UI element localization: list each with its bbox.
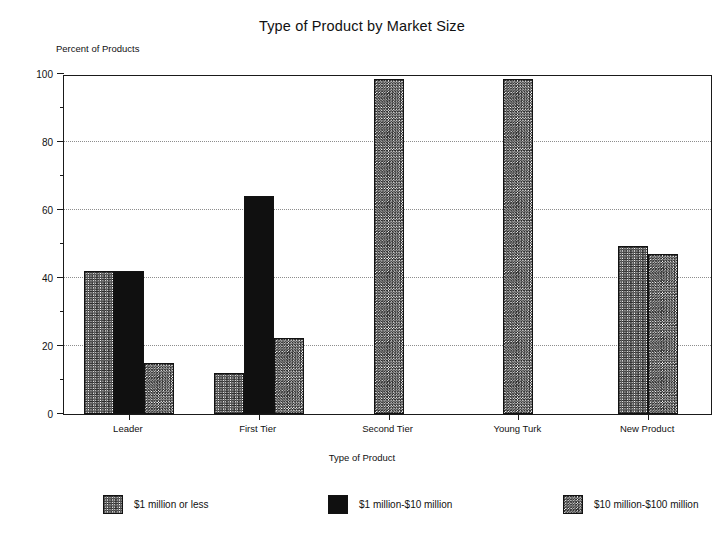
- x-axis-tick-label: First Tier: [239, 423, 276, 434]
- y-axis-tick: [57, 141, 64, 142]
- legend-item[interactable]: $1 million or less: [103, 493, 208, 515]
- legend-label: $1 million or less: [134, 499, 208, 510]
- legend-item[interactable]: $10 million-$100 million: [563, 493, 699, 515]
- legend-swatch-icon: [563, 495, 583, 514]
- y-axis-minor-tick: [60, 243, 64, 244]
- x-axis-tick-label: New Product: [620, 423, 674, 434]
- y-axis-minor-tick: [60, 107, 64, 108]
- y-axis-tick-label: 40: [42, 273, 53, 284]
- bar: [214, 373, 244, 414]
- bar-chart: Type of Product by Market Size Percent o…: [0, 0, 724, 556]
- x-axis-tick: [389, 414, 390, 420]
- y-axis-tick: [57, 73, 64, 74]
- y-axis-minor-tick: [60, 311, 64, 312]
- y-axis-minor-tick: [60, 379, 64, 380]
- legend-swatch-icon: [103, 495, 123, 514]
- legend-swatch-icon: [328, 495, 348, 514]
- x-axis-tick-label: Leader: [113, 423, 143, 434]
- legend-label: $10 million-$100 million: [594, 499, 699, 510]
- plot-area: 020406080100: [63, 75, 712, 415]
- y-axis-tick: [57, 345, 64, 346]
- x-axis-tick-label: Second Tier: [362, 423, 413, 434]
- x-axis-tick: [259, 414, 260, 420]
- y-axis-tick: [57, 413, 64, 414]
- bar: [648, 254, 678, 414]
- x-axis-tick: [129, 414, 130, 420]
- y-axis-tick-label: 100: [36, 69, 53, 80]
- legend-label: $1 million-$10 million: [359, 499, 452, 510]
- bar: [274, 338, 304, 415]
- y-axis-tick-label: 20: [42, 341, 53, 352]
- y-axis-label: Percent of Products: [56, 43, 139, 54]
- y-axis-tick-label: 0: [47, 409, 53, 420]
- y-axis-tick-label: 80: [42, 137, 53, 148]
- y-axis-tick: [57, 209, 64, 210]
- bar: [84, 271, 114, 414]
- chart-title: Type of Product by Market Size: [0, 18, 724, 34]
- bar: [144, 363, 174, 414]
- bar: [114, 271, 144, 414]
- bar: [618, 246, 648, 414]
- y-axis-minor-tick: [60, 175, 64, 176]
- y-axis-tick-label: 60: [42, 205, 53, 216]
- bar: [244, 196, 274, 414]
- bar: [374, 79, 404, 414]
- bar: [503, 79, 533, 414]
- x-axis-tick: [648, 414, 649, 420]
- chart-legend: $1 million or less$1 million-$10 million…: [63, 493, 712, 523]
- y-axis-tick: [57, 277, 64, 278]
- x-axis-tick: [518, 414, 519, 420]
- x-axis-tick-label: Young Turk: [493, 423, 541, 434]
- legend-item[interactable]: $1 million-$10 million: [328, 493, 452, 515]
- x-axis-label: Type of Product: [0, 452, 724, 463]
